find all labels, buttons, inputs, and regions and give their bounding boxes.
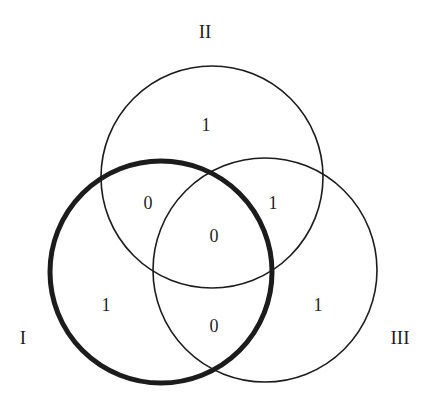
circle-set-i (50, 161, 272, 383)
circle-set-ii (101, 66, 323, 288)
set-label-ii: II (199, 21, 212, 42)
venn-diagram: I II III 1 0 1 0 1 0 1 (0, 0, 433, 407)
set-label-i: I (20, 327, 26, 348)
region-values: 1 0 1 0 1 0 1 (102, 115, 323, 336)
region-value-ii-iii: 1 (269, 193, 278, 213)
region-value-ii-only: 1 (202, 115, 211, 135)
region-value-iii-only: 1 (314, 295, 323, 315)
set-labels: I II III (20, 21, 410, 348)
circle-set-iii (153, 158, 377, 382)
region-value-i-ii: 0 (144, 193, 153, 213)
set-label-iii: III (391, 327, 410, 348)
region-value-center: 0 (210, 226, 219, 246)
region-value-i-iii: 0 (210, 316, 219, 336)
region-value-i-only: 1 (102, 295, 111, 315)
